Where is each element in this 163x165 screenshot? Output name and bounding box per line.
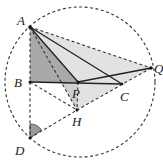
point-D	[29, 137, 32, 140]
geometry-diagram: A B P C Q H D	[0, 0, 163, 165]
point-H	[76, 109, 79, 112]
label-B: B	[14, 75, 22, 90]
label-D: D	[14, 143, 25, 158]
point-Q	[149, 66, 153, 70]
label-C: C	[120, 89, 129, 104]
point-C	[121, 83, 124, 86]
point-P	[77, 81, 80, 84]
label-A: A	[16, 13, 25, 28]
angle-mark-D	[30, 124, 42, 138]
label-Q: Q	[154, 61, 163, 76]
segment-DH	[30, 110, 77, 138]
point-A	[28, 25, 32, 29]
point-B	[29, 81, 32, 84]
label-P: P	[71, 86, 80, 101]
label-H: H	[71, 114, 82, 129]
